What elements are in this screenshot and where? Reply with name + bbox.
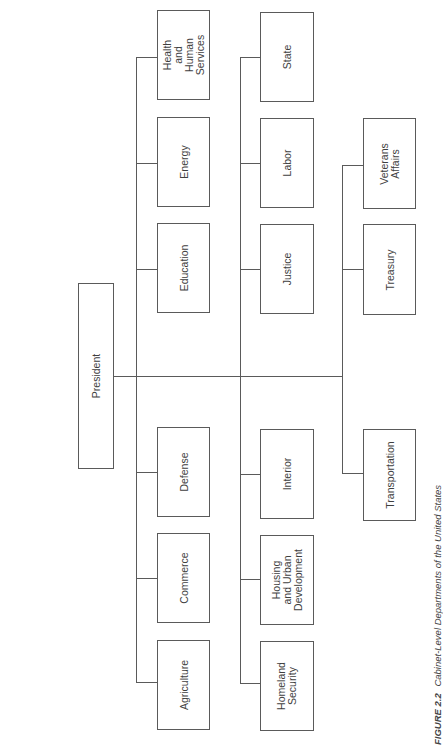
column-b-connector — [240, 57, 241, 684]
dept-defense: Defense — [157, 427, 210, 517]
dept-label: Energy — [178, 145, 189, 178]
dept-education: Education — [157, 223, 210, 313]
dept-label: Agriculture — [178, 660, 189, 710]
dept-homeland-security: Homeland Security — [260, 641, 314, 731]
dept-interior: Interior — [260, 429, 314, 519]
dept-label: Transportation — [384, 441, 395, 508]
dept-label: Justice — [282, 253, 293, 286]
dept-label: Treasury — [384, 249, 395, 290]
dept-agriculture: Agriculture — [157, 640, 210, 730]
president-box: President — [78, 283, 114, 469]
tie — [136, 163, 157, 164]
dept-label: Defense — [178, 452, 189, 491]
column-c-connector — [342, 165, 343, 474]
tie — [240, 683, 260, 684]
column-a-connector — [136, 57, 137, 683]
president-label: President — [91, 354, 102, 398]
dept-label: Labor — [282, 150, 293, 177]
dept-label: Interior — [282, 458, 293, 491]
tie — [136, 472, 157, 473]
figure-title: Cabinet-Level Departments of the United … — [432, 485, 443, 687]
tie — [136, 578, 157, 579]
dept-justice: Justice — [260, 224, 314, 314]
dept-health-and-human-services: Health and Human Services — [157, 10, 210, 100]
dept-label: Housing and Urban Development — [271, 549, 304, 611]
dept-label: Commerce — [178, 552, 189, 603]
dept-label: Homeland Security — [276, 662, 298, 710]
tie — [342, 165, 363, 166]
dept-transportation: Transportation — [363, 429, 416, 521]
tie — [240, 474, 260, 475]
dept-commerce: Commerce — [157, 533, 210, 623]
tie — [240, 269, 260, 270]
dept-label: Veterans Affairs — [379, 143, 401, 184]
tie — [136, 682, 157, 683]
dept-veterans-affairs: Veterans Affairs — [363, 118, 416, 209]
tie — [342, 269, 363, 270]
spine-connector — [113, 376, 343, 377]
dept-label: State — [282, 45, 293, 70]
tie — [240, 163, 260, 164]
tie — [342, 473, 363, 474]
dept-label: Health and Human Services — [162, 35, 206, 75]
figure-caption: FIGURE 2.2 Cabinet-Level Departments of … — [432, 485, 443, 745]
tie — [240, 579, 260, 580]
dept-treasury: Treasury — [363, 224, 416, 315]
dept-energy: Energy — [157, 117, 210, 207]
dept-state: State — [260, 12, 314, 102]
figure-number: FIGURE 2.2 — [432, 693, 443, 745]
tie — [136, 57, 157, 58]
dept-housing-and-urban-development: Housing and Urban Development — [260, 535, 314, 625]
dept-labor: Labor — [260, 118, 314, 208]
dept-label: Education — [178, 245, 189, 292]
tie — [240, 57, 260, 58]
tie — [136, 269, 157, 270]
